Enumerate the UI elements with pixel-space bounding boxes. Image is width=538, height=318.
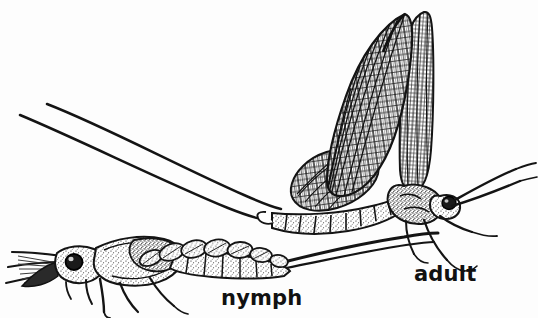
adult-cerci [20, 104, 281, 221]
adult-compound-eye [442, 197, 456, 210]
nymph-compound-eye [66, 254, 83, 270]
label-adult: adult [414, 264, 476, 285]
label-nymph: nymph [221, 288, 303, 309]
adult-mayfly [20, 12, 537, 271]
